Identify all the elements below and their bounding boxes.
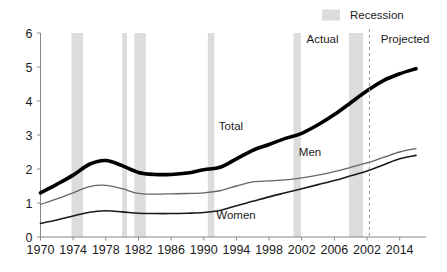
series-labels: TotalMenWomen xyxy=(216,120,321,221)
y-tick-label: 6 xyxy=(26,27,33,41)
period-annotations: ActualProjected xyxy=(307,33,430,45)
x-tick-label: 1970 xyxy=(27,243,55,257)
legend-label: Recession xyxy=(350,9,404,21)
x-tick-label: 1994 xyxy=(223,243,251,257)
recession-bands xyxy=(72,33,363,237)
recession-band xyxy=(208,33,215,237)
x-tick-label: 1982 xyxy=(125,243,153,257)
recession-band xyxy=(134,33,145,237)
recession-band xyxy=(122,33,127,237)
actual-label: Actual xyxy=(307,33,339,45)
x-tick-label: 1986 xyxy=(157,243,185,257)
legend-swatch xyxy=(322,10,340,21)
legend: Recession xyxy=(322,9,404,21)
series-label-women: Women xyxy=(216,209,255,221)
line-chart: 0123456 19701974197819821986199019941998… xyxy=(0,0,447,272)
x-tick-label: 2014 xyxy=(386,243,414,257)
x-tick-label: 1978 xyxy=(92,243,120,257)
y-tick-label: 3 xyxy=(26,129,33,143)
recession-band xyxy=(72,33,83,237)
y-tick-label: 2 xyxy=(26,163,33,177)
x-tick-label: 2002 xyxy=(353,243,381,257)
series-label-men: Men xyxy=(299,146,321,158)
x-tick-label: 2002 xyxy=(288,243,316,257)
y-tick-label: 4 xyxy=(26,95,33,109)
x-tick-label: 1974 xyxy=(59,243,87,257)
x-tick-label: 1990 xyxy=(190,243,218,257)
x-tick-label: 1998 xyxy=(255,243,283,257)
recession-band xyxy=(349,33,363,237)
chart-container: 0123456 19701974197819821986199019941998… xyxy=(0,0,447,272)
y-tick-label: 1 xyxy=(26,197,33,211)
projected-label: Projected xyxy=(381,33,430,45)
y-tick-labels: 0123456 xyxy=(26,27,33,245)
series-label-total: Total xyxy=(219,120,243,132)
x-tick-labels: 1970197419781982198619901994199820022006… xyxy=(27,243,414,257)
x-tick-label: 2006 xyxy=(320,243,348,257)
y-tick-label: 5 xyxy=(26,61,33,75)
